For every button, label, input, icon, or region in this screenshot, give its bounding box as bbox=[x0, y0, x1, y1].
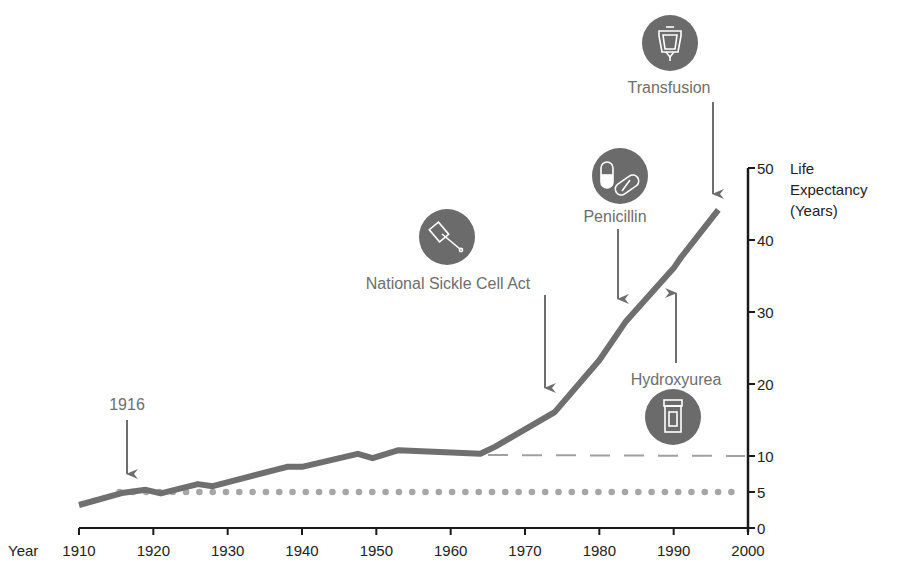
baseline-dot bbox=[356, 489, 363, 496]
baseline-dot bbox=[675, 489, 682, 496]
annotation-penicillin-label: Penicillin bbox=[583, 208, 646, 225]
annotation-1916-label: 1916 bbox=[109, 396, 145, 413]
y-axis-title: Life Expectancy (Years) bbox=[790, 160, 872, 219]
gavel-icon bbox=[419, 209, 475, 265]
iv-bag-icon bbox=[642, 15, 698, 71]
baseline-dot bbox=[515, 489, 522, 496]
x-tick-label: 1970 bbox=[508, 542, 541, 559]
annotation-penicillin: Penicillin bbox=[583, 148, 648, 299]
baseline-10-years-dashed-line bbox=[488, 455, 745, 456]
baseline-dot bbox=[369, 489, 376, 496]
y-tick-label: 0 bbox=[757, 520, 765, 537]
baseline-dot bbox=[289, 489, 296, 496]
baseline-dot bbox=[303, 489, 310, 496]
baseline-dot bbox=[662, 489, 669, 496]
baseline-dot bbox=[196, 489, 203, 496]
baseline-dot bbox=[316, 489, 323, 496]
baseline-dot bbox=[542, 489, 549, 496]
baseline-dot bbox=[276, 489, 283, 496]
y-tick-label: 50 bbox=[757, 160, 774, 177]
y-title-line-1: Life bbox=[790, 160, 814, 177]
x-axis-title: Year bbox=[8, 542, 38, 559]
x-tick-label: 1950 bbox=[360, 542, 393, 559]
life-expectancy-chart: 1910192019301940195019601970198019902000… bbox=[0, 0, 908, 581]
baseline-dot bbox=[622, 489, 629, 496]
annotation-act-label: National Sickle Cell Act bbox=[366, 275, 531, 292]
y-tick-label: 20 bbox=[757, 376, 774, 393]
annotation-national-sickle-cell-act: National Sickle Cell Act bbox=[366, 209, 545, 388]
pill-bottle-icon bbox=[645, 389, 701, 445]
annotation-hydroxyurea: Hydroxyurea bbox=[631, 293, 722, 445]
baseline-dot bbox=[715, 489, 722, 496]
baseline-dot bbox=[236, 489, 243, 496]
baseline-dot bbox=[582, 489, 589, 496]
baseline-dot bbox=[555, 489, 562, 496]
y-title-line-3: (Years) bbox=[790, 202, 838, 219]
baseline-dot bbox=[502, 489, 509, 496]
baseline-dot bbox=[475, 489, 482, 496]
baseline-dot bbox=[489, 489, 496, 496]
y-axis: 051020304050 Life Expectancy (Years) bbox=[748, 160, 872, 537]
y-title-line-2: Expectancy bbox=[790, 181, 868, 198]
baseline-dot bbox=[396, 489, 403, 496]
baseline-dot bbox=[382, 489, 389, 496]
x-tick-label: 1990 bbox=[657, 542, 690, 559]
annotation-transfusion-label: Transfusion bbox=[628, 79, 711, 96]
life-expectancy-curve bbox=[79, 210, 718, 505]
baseline-dot bbox=[702, 489, 709, 496]
baseline-dot bbox=[342, 489, 349, 496]
baseline-dot bbox=[608, 489, 615, 496]
baseline-dot bbox=[635, 489, 642, 496]
x-tick-label: 1960 bbox=[434, 542, 467, 559]
baseline-dot bbox=[263, 489, 270, 496]
annotation-1916: 1916 bbox=[109, 396, 145, 474]
x-tick-label: 2000 bbox=[731, 542, 764, 559]
y-tick-label: 40 bbox=[757, 232, 774, 249]
baseline-dot bbox=[648, 489, 655, 496]
baseline-dot bbox=[409, 489, 416, 496]
baseline-dot bbox=[595, 489, 602, 496]
x-tick-label: 1910 bbox=[62, 542, 95, 559]
y-tick-label: 30 bbox=[757, 304, 774, 321]
baseline-dot bbox=[223, 489, 230, 496]
y-tick-label: 5 bbox=[757, 484, 765, 501]
baseline-dot bbox=[728, 489, 735, 496]
baseline-dot bbox=[462, 489, 469, 496]
baseline-dot bbox=[436, 489, 443, 496]
y-tick-label: 10 bbox=[757, 448, 774, 465]
baseline-dot bbox=[449, 489, 456, 496]
pills-icon bbox=[592, 148, 648, 204]
baseline-dot bbox=[422, 489, 429, 496]
baseline-dot bbox=[688, 489, 695, 496]
x-tick-label: 1980 bbox=[583, 542, 616, 559]
baseline-dot bbox=[529, 489, 536, 496]
x-axis: 1910192019301940195019601970198019902000… bbox=[8, 528, 765, 559]
baseline-dot bbox=[249, 489, 256, 496]
x-tick-label: 1920 bbox=[137, 542, 170, 559]
x-tick-label: 1930 bbox=[211, 542, 244, 559]
baseline-dot bbox=[569, 489, 576, 496]
x-tick-label: 1940 bbox=[285, 542, 318, 559]
baseline-dot bbox=[329, 489, 336, 496]
baseline-dot bbox=[209, 489, 216, 496]
baseline-5-years-dotted-line bbox=[116, 489, 734, 496]
annotation-hydroxyurea-label: Hydroxyurea bbox=[631, 371, 722, 388]
